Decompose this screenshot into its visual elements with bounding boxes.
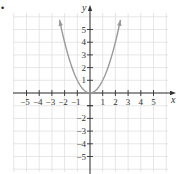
y-tick-label: 4 (82, 37, 87, 47)
x-tick-label: 3 (126, 97, 131, 107)
axes: xy (13, 2, 176, 174)
parabola-graph: • xy −5−4−3−2−11234554321−2−3−4−5 (0, 0, 177, 174)
problem-bullet: • (1, 3, 4, 13)
y-tick-label: −2 (76, 113, 86, 123)
x-tick-label: −3 (46, 97, 56, 107)
x-tick-label: 2 (113, 97, 118, 107)
y-tick-label: −4 (76, 139, 86, 149)
y-tick-label: 1 (82, 75, 87, 85)
x-tick-label: 5 (151, 97, 156, 107)
y-axis-arrow-icon (88, 5, 92, 11)
y-tick-label: −3 (76, 126, 86, 136)
x-axis-label: x (170, 94, 176, 105)
x-tick-label: 1 (100, 97, 105, 107)
x-tick-label: −1 (71, 97, 81, 107)
x-tick-label: −5 (20, 97, 30, 107)
y-tick-label: 3 (82, 50, 87, 60)
y-tick-label: −5 (76, 152, 86, 162)
x-tick-label: 4 (139, 97, 144, 107)
y-tick-label: 5 (82, 25, 87, 35)
y-axis-label: y (81, 2, 87, 13)
x-tick-label: −2 (58, 97, 68, 107)
y-tick-label: 2 (82, 63, 87, 73)
x-tick-label: −4 (33, 97, 43, 107)
